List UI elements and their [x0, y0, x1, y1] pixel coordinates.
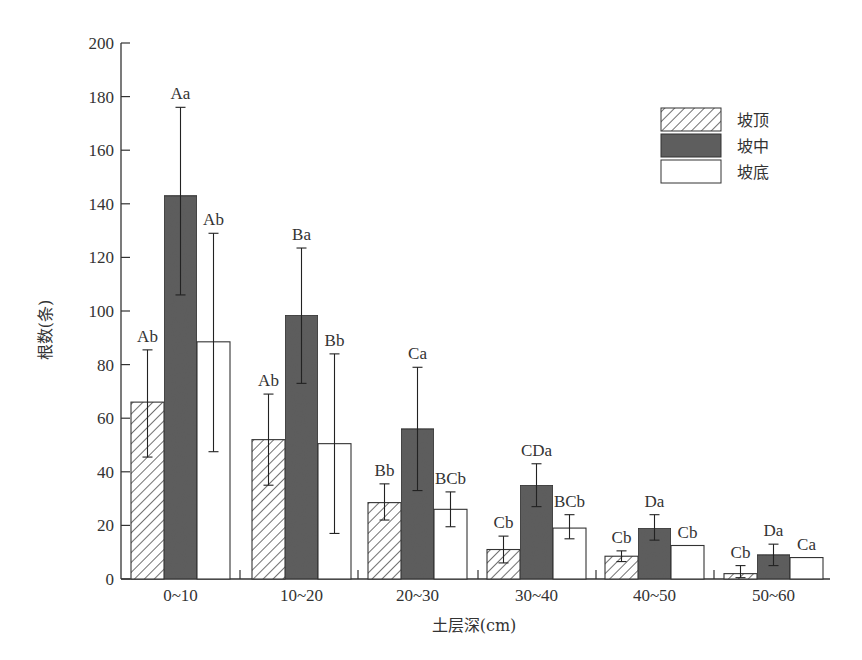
legend-label-slope-middle: 坡中	[737, 137, 769, 156]
significance-label: BCb	[435, 469, 466, 488]
y-tick-label: 40	[97, 463, 114, 482]
significance-label: Bb	[325, 331, 345, 350]
legend-swatch-hatched	[661, 108, 721, 131]
significance-label: Ca	[797, 535, 816, 554]
y-tick-label: 60	[97, 409, 114, 428]
y-tick-label: 20	[97, 516, 114, 535]
significance-label: Da	[645, 492, 665, 511]
legend-label-slope-top: 坡顶	[737, 111, 769, 130]
legend-label-slope-bottom: 坡底	[737, 163, 769, 182]
y-tick-label: 200	[89, 34, 115, 53]
x-tick-label: 40~50	[633, 586, 676, 605]
x-tick-label: 50~60	[752, 586, 795, 605]
bar-slope-bottom	[790, 558, 823, 579]
x-tick-label: 20~30	[396, 586, 439, 605]
bar-chart: 020406080100120140160180200 0~1010~2020~…	[0, 0, 862, 660]
legend-swatch-dark	[661, 134, 721, 157]
legend: 坡顶 坡中 坡底	[661, 108, 769, 183]
x-tick-label: 0~10	[163, 586, 198, 605]
significance-label: Cb	[731, 543, 751, 562]
y-tick-label: 0	[106, 570, 115, 589]
x-tick-label: 10~20	[280, 586, 323, 605]
significance-label: Bb	[375, 461, 395, 480]
significance-label: Ab	[203, 210, 224, 229]
bar-slope-bottom	[671, 546, 704, 580]
significance-label: Da	[764, 521, 784, 540]
y-tick-label: 120	[89, 248, 115, 267]
significance-label: BCb	[554, 492, 585, 511]
significance-label: Aa	[171, 84, 191, 103]
y-tick-label: 140	[89, 195, 115, 214]
y-tick-label: 100	[89, 302, 115, 321]
significance-label: Cb	[678, 523, 698, 542]
y-axis: 020406080100120140160180200	[89, 34, 131, 589]
legend-swatch-white	[661, 160, 721, 183]
significance-label: Cb	[612, 528, 632, 547]
y-axis-title: 根数(条)	[36, 300, 55, 360]
significance-label: CDa	[521, 441, 553, 460]
significance-label: Ab	[258, 371, 279, 390]
significance-label: Cb	[494, 513, 514, 532]
x-axis-title: 土层深(cm)	[432, 616, 517, 635]
significance-label: Ca	[408, 344, 427, 363]
significance-label: Ab	[137, 327, 158, 346]
significance-label: Ba	[292, 225, 311, 244]
bars	[131, 196, 823, 579]
y-tick-label: 80	[97, 356, 114, 375]
y-tick-label: 180	[89, 88, 115, 107]
x-tick-label: 30~40	[515, 586, 558, 605]
y-tick-label: 160	[89, 141, 115, 160]
